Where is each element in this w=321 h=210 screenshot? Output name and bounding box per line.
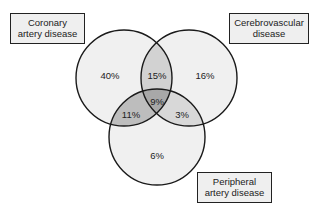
value-coronary-peripheral: 11%	[122, 109, 140, 120]
value-cerebrovascular-peripheral: 3%	[175, 109, 189, 120]
label-line: Peripheral	[198, 176, 271, 187]
label-line: artery disease	[198, 187, 271, 198]
label-line: Coronary	[11, 17, 84, 28]
label-line: disease	[230, 28, 308, 39]
label-line: artery disease	[11, 28, 84, 39]
value-peripheral-only: 6%	[150, 150, 164, 161]
value-coronary-cerebrovascular: 15%	[147, 70, 166, 81]
value-all-three: 9%	[150, 96, 164, 107]
value-coronary-only: 40%	[100, 70, 119, 81]
label-line: Cerebrovascular	[230, 17, 308, 28]
label-cerebrovascular-disease: Cerebrovascular disease	[229, 13, 309, 44]
label-peripheral-artery-disease: Peripheral artery disease	[197, 172, 272, 203]
label-coronary-artery-disease: Coronary artery disease	[10, 13, 85, 44]
value-cerebrovascular-only: 16%	[195, 70, 214, 81]
